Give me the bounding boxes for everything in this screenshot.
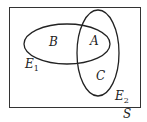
set-e1-label: E1: [24, 57, 39, 73]
region-b-label: B: [48, 35, 58, 49]
universe-label: S: [123, 107, 131, 121]
region-a-label: A: [89, 34, 99, 48]
region-c-label: C: [96, 69, 105, 83]
set-e2-label: E2: [114, 89, 129, 105]
venn-diagram: B A C E1 E2 S: [0, 0, 147, 122]
set-e2-ellipse: [77, 10, 119, 96]
